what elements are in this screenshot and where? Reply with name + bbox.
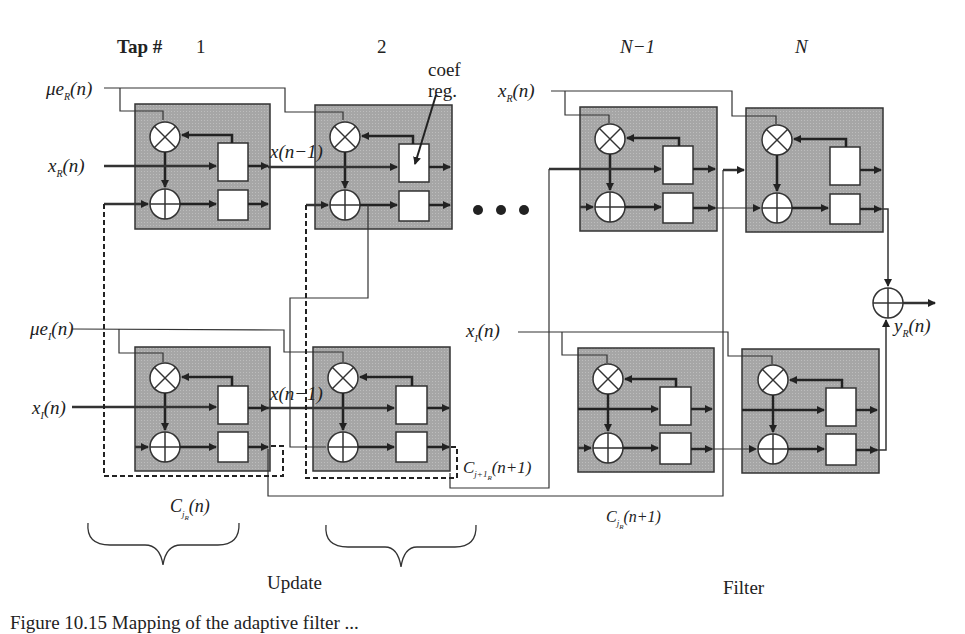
update-brace: [88, 523, 239, 565]
filter-group-label: Filter: [723, 577, 764, 599]
output-y-r: yR(n): [894, 315, 931, 339]
ellipsis-dots: [473, 205, 529, 215]
input-mu-e-i: μeI(n): [30, 318, 73, 342]
c-update-label: CjR(n): [170, 496, 210, 521]
output-adder: [873, 288, 903, 318]
input-x-r: xR(n): [48, 155, 85, 179]
c-filter-label: CjR(n+1): [606, 508, 661, 531]
update-group-label: Update: [267, 572, 322, 594]
tap-number-2: 2: [377, 36, 387, 58]
tap-header-label: Tap #: [117, 36, 162, 58]
delay-label-bottom: x(n−1): [270, 383, 323, 405]
tap-number-1: 1: [196, 36, 206, 58]
coef-reg-label-line2: reg.: [428, 80, 457, 102]
input-mu-e-r: μeR(n): [46, 78, 92, 102]
c-next-label: Cj+1R(n+1): [463, 458, 532, 482]
filter-brace: [326, 525, 476, 567]
input-x-r-right: xR(n): [498, 80, 535, 104]
input-x-i-right: xI(n): [466, 320, 500, 344]
coef-reg-label-line1: coef: [428, 59, 461, 81]
figure-caption: Figure 10.15 Mapping of the adaptive fil…: [10, 612, 359, 634]
delay-label-top: x(n−1): [270, 141, 323, 163]
input-x-i: xI(n): [32, 397, 66, 421]
tap-number-n: N: [795, 36, 808, 58]
tap-number-n-1: N−1: [620, 36, 655, 58]
